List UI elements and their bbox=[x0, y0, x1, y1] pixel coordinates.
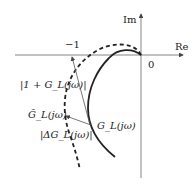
gl-tilde-curve bbox=[65, 45, 141, 170]
gl-label: G_L(jω) bbox=[97, 121, 136, 131]
return-difference-label: |1 + G_L(jω)| bbox=[20, 80, 87, 90]
return-difference-arrow bbox=[72, 57, 90, 125]
imag-axis-label: Im bbox=[123, 15, 136, 25]
perturbation-label: |ΔG_L(jω)| bbox=[40, 130, 93, 140]
gl-curve bbox=[88, 50, 141, 157]
gl-tilde-label: G̃_L(jω) bbox=[28, 110, 67, 120]
real-axis-label: Re bbox=[175, 42, 188, 52]
critical-point-label: −1 bbox=[65, 40, 80, 50]
origin-label: 0 bbox=[148, 60, 154, 70]
perturbation-arrow bbox=[66, 116, 91, 125]
nyquist-plot bbox=[0, 0, 196, 187]
